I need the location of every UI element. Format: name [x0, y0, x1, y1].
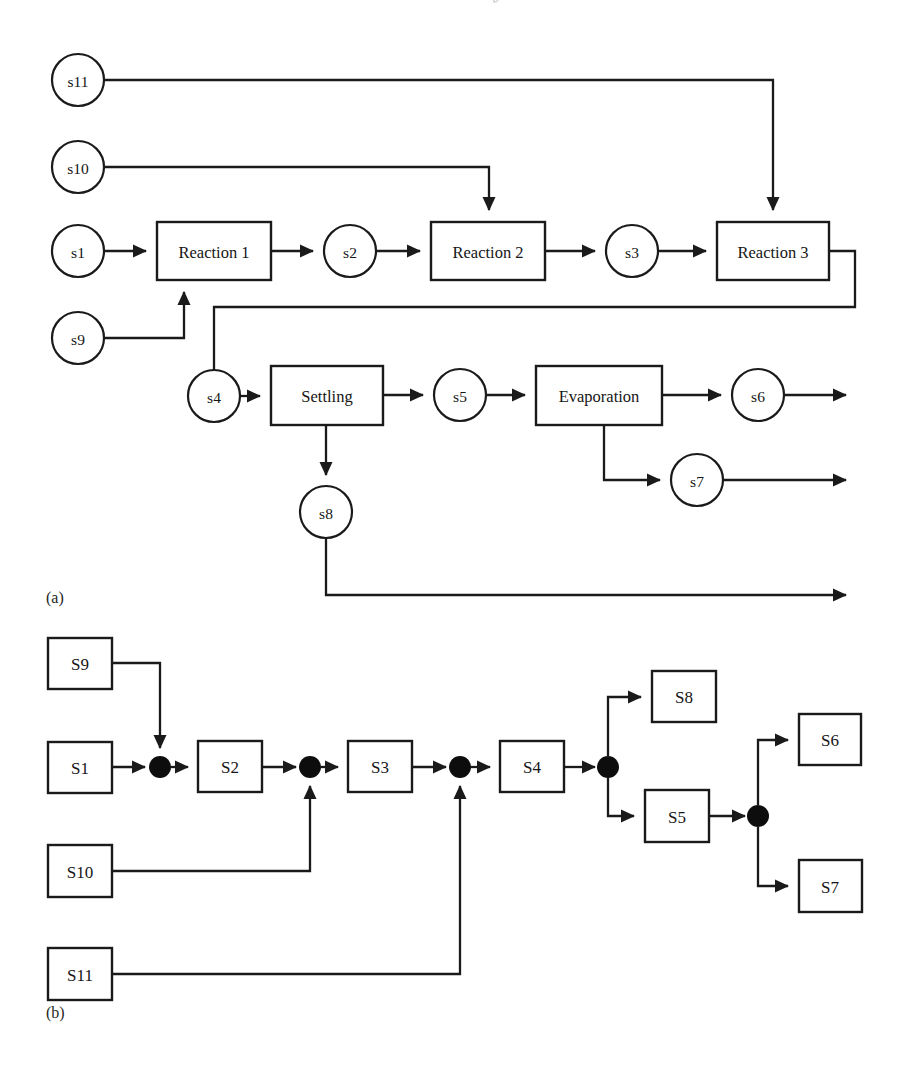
unit-label: Reaction 2: [452, 243, 523, 262]
stream-node-s5[interactable]: s5: [434, 369, 486, 421]
graph-label: S2: [221, 758, 239, 777]
panel-b-group: S9 S1 S2 S3 S4: [46, 638, 862, 1022]
graph-label: S6: [821, 731, 839, 750]
stream-label: s1: [71, 244, 85, 261]
panel-b-label: (b): [46, 1004, 65, 1022]
junction-dot-j3: [449, 756, 471, 778]
unit-label: Reaction 3: [737, 243, 808, 262]
graph-label: S10: [67, 863, 93, 882]
stream-label: s10: [67, 160, 89, 177]
unit-node-evaporation[interactable]: Evaporation: [536, 366, 662, 425]
panel-a-group: s11 s10 s1 s9 s2: [46, 54, 855, 607]
graph-node-S10[interactable]: S10: [48, 845, 112, 897]
edge-S10-to-j2: [112, 786, 310, 871]
figure-caption: [0, 1060, 909, 1073]
graph-node-S4[interactable]: S4: [500, 741, 564, 792]
graph-node-S11[interactable]: S11: [48, 948, 112, 1000]
graph-label: S3: [371, 758, 389, 777]
graph-node-S8[interactable]: S8: [652, 671, 716, 722]
graph-node-S6[interactable]: S6: [799, 714, 861, 765]
panel-b-nodes: S9 S1 S2 S3 S4: [48, 638, 862, 1000]
edge-S11-to-j3: [112, 786, 460, 974]
graph-node-S2[interactable]: S2: [198, 741, 262, 792]
unit-label: Settling: [301, 387, 352, 406]
graph-node-S7[interactable]: S7: [799, 860, 862, 912]
stream-node-s11[interactable]: s11: [52, 54, 104, 106]
graph-label: S7: [821, 878, 839, 897]
stream-node-s9[interactable]: s9: [52, 312, 104, 364]
unit-label: Evaporation: [559, 387, 640, 406]
graph-node-S5[interactable]: S5: [645, 790, 709, 842]
stream-label: s3: [625, 244, 639, 261]
stream-node-s6[interactable]: s6: [732, 369, 784, 421]
stream-label: s7: [690, 473, 704, 490]
junction-dot-j1: [149, 756, 171, 778]
graph-label: S8: [675, 688, 693, 707]
unit-node-reaction1[interactable]: Reaction 1: [157, 222, 271, 280]
graph-label: S4: [523, 758, 541, 777]
panel-a-edges: [104, 80, 855, 595]
graph-label: S11: [67, 966, 93, 985]
edge-s10-to-reaction2: [104, 167, 489, 210]
unit-label: Reaction 1: [178, 243, 249, 262]
stream-label: s11: [68, 73, 89, 90]
process-flow-diagram: s11 s10 s1 s9 s2: [0, 0, 909, 1073]
graph-label: S5: [668, 808, 686, 827]
panel-a-label: (a): [46, 589, 64, 607]
stream-node-s4[interactable]: s4: [188, 370, 240, 422]
unit-node-reaction2[interactable]: Reaction 2: [431, 222, 545, 280]
graph-node-S1[interactable]: S1: [48, 742, 112, 793]
stream-node-s2[interactable]: s2: [324, 225, 376, 277]
edge-s9-to-reaction1: [104, 292, 184, 338]
edge-S9-to-j1: [112, 663, 160, 748]
stream-label: s5: [453, 388, 467, 405]
stream-node-s10[interactable]: s10: [52, 141, 104, 193]
stream-node-s8[interactable]: s8: [300, 486, 352, 538]
edge-j4-to-S8: [608, 697, 641, 756]
stream-label: s9: [71, 331, 85, 348]
edge-j4-to-S5: [608, 778, 634, 816]
stream-label: s8: [319, 505, 333, 522]
unit-node-settling[interactable]: Settling: [271, 366, 383, 425]
edge-j5-to-S7: [758, 827, 788, 886]
junction-dot-j4: [597, 756, 619, 778]
stream-node-s1[interactable]: s1: [52, 225, 104, 277]
junction-dot-j5: [747, 805, 769, 827]
edge-s11-to-reaction3: [104, 80, 773, 210]
graph-node-S9[interactable]: S9: [48, 638, 112, 689]
stream-label: s2: [343, 244, 357, 261]
edge-j5-to-S6: [758, 740, 788, 805]
graph-node-S3[interactable]: S3: [348, 741, 412, 792]
edge-s8-outlet: [326, 538, 846, 595]
graph-label: S1: [71, 759, 89, 778]
stream-node-s3[interactable]: s3: [606, 225, 658, 277]
stream-node-s7[interactable]: s7: [671, 454, 723, 506]
stream-label: s4: [207, 389, 221, 406]
stream-label: s6: [751, 388, 765, 405]
graph-label: S9: [71, 655, 89, 674]
unit-node-reaction3[interactable]: Reaction 3: [717, 222, 829, 280]
junction-dot-j2: [299, 756, 321, 778]
edge-evaporation-to-s7: [604, 425, 660, 480]
panel-a-streams: s11 s10 s1 s9 s2: [52, 54, 784, 538]
figure-page: g: [0, 0, 909, 1073]
